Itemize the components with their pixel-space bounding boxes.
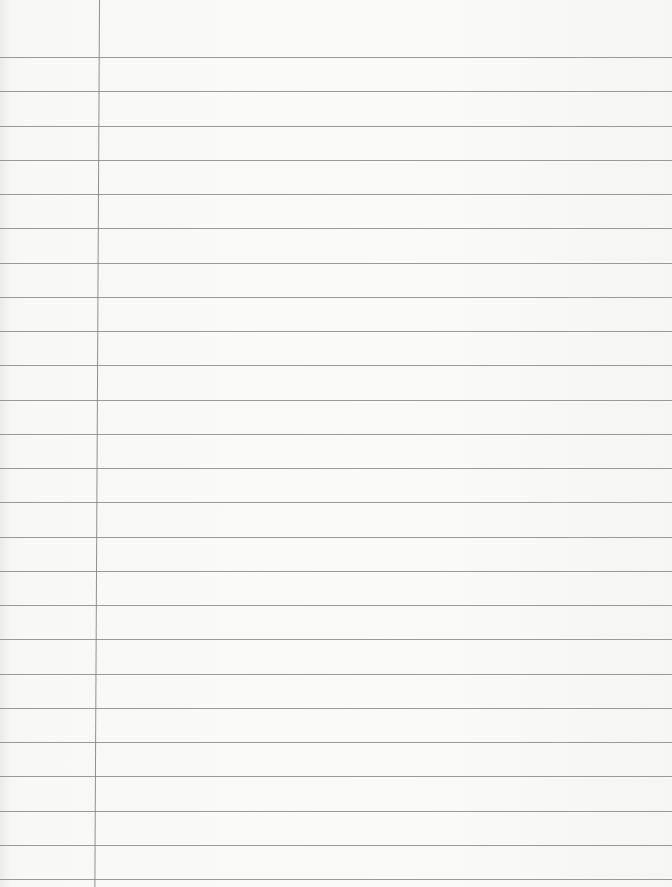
ruled-line bbox=[0, 228, 672, 229]
ruled-line bbox=[0, 434, 672, 435]
ruled-line bbox=[0, 879, 672, 880]
ruled-line bbox=[0, 263, 672, 264]
ruled-line bbox=[0, 742, 672, 743]
ruled-line bbox=[0, 845, 672, 846]
ruled-line bbox=[0, 194, 672, 195]
ruled-line bbox=[0, 160, 672, 161]
ruled-line bbox=[0, 776, 672, 777]
ruled-line bbox=[0, 331, 672, 332]
ruled-line bbox=[0, 126, 672, 127]
margin-line bbox=[94, 0, 100, 887]
ruled-line bbox=[0, 57, 672, 58]
ruled-line bbox=[0, 365, 672, 366]
ruled-line bbox=[0, 297, 672, 298]
ruled-line bbox=[0, 674, 672, 675]
ruled-line bbox=[0, 605, 672, 606]
ruled-line bbox=[0, 708, 672, 709]
ruled-line bbox=[0, 468, 672, 469]
ruled-line bbox=[0, 811, 672, 812]
ruled-line bbox=[0, 571, 672, 572]
ruled-line bbox=[0, 91, 672, 92]
ruled-line bbox=[0, 537, 672, 538]
ruled-line bbox=[0, 400, 672, 401]
lined-paper bbox=[0, 0, 672, 887]
ruled-line bbox=[0, 639, 672, 640]
ruled-line bbox=[0, 502, 672, 503]
